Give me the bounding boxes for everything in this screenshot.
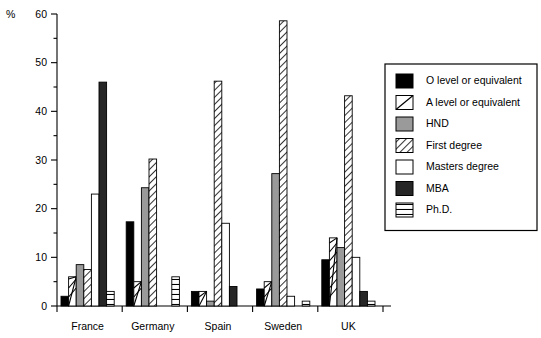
bar <box>257 289 265 306</box>
legend-item-label: First degree <box>426 139 482 151</box>
legend-swatch <box>396 182 413 196</box>
bar <box>367 301 375 306</box>
bar <box>61 296 69 306</box>
category-labels: FranceGermanySpainSwedenUK <box>57 306 383 332</box>
x-axis-category-label: Sweden <box>264 320 302 332</box>
bar <box>222 223 230 306</box>
x-axis-category-label: France <box>71 320 104 332</box>
legend-swatch <box>396 160 413 174</box>
bar <box>229 287 237 306</box>
bar <box>337 248 345 306</box>
legend-item-label: HND <box>426 117 449 129</box>
bar <box>172 277 180 306</box>
chart-canvas: 0102030405060% FranceGermanySpainSwedenU… <box>0 0 541 338</box>
legend-swatch <box>396 74 413 88</box>
bar <box>352 257 360 306</box>
bar <box>272 174 280 306</box>
bar <box>149 159 157 306</box>
bar <box>279 21 287 306</box>
y-axis-unit-label: % <box>6 8 15 20</box>
bar <box>84 270 92 307</box>
bar <box>287 296 295 306</box>
bar <box>91 194 99 306</box>
bar <box>141 188 149 306</box>
x-axis-category-label: UK <box>341 320 356 332</box>
bar <box>76 265 84 306</box>
bar <box>214 81 222 306</box>
legend-item-label: O level or equivalent <box>426 74 522 86</box>
legend-item-label: A level or equivalent <box>426 96 520 108</box>
y-axis-tick-label: 0 <box>41 300 47 312</box>
y-axis-tick-label: 40 <box>35 105 47 117</box>
y-axis-tick-label: 30 <box>35 154 47 166</box>
y-axis-tick-label: 20 <box>35 202 47 214</box>
bar <box>360 291 368 306</box>
bar <box>322 260 330 306</box>
x-axis-category-label: Spain <box>205 320 232 332</box>
legend-item-label: MBA <box>426 182 449 194</box>
chart-legend: O level or equivalentA level or equivale… <box>385 64 537 231</box>
legend-swatch <box>396 117 413 131</box>
bar <box>99 82 107 306</box>
legend-swatch <box>396 203 413 217</box>
bar <box>302 301 310 306</box>
bars-group <box>61 21 375 306</box>
y-axis-tick-label: 50 <box>35 56 47 68</box>
y-axis-tick-label: 60 <box>35 8 47 20</box>
x-axis-category-label: Germany <box>131 320 175 332</box>
legend-item-label: Masters degree <box>426 160 499 172</box>
bar <box>191 291 199 306</box>
legend-item-label: Ph.D. <box>426 203 452 215</box>
y-axis-tick-label: 10 <box>35 251 47 263</box>
legend-swatch <box>396 139 413 153</box>
bar <box>345 96 353 306</box>
bar <box>207 301 215 306</box>
bar-chart: 0102030405060% FranceGermanySpainSwedenU… <box>0 0 541 338</box>
bar <box>107 291 115 306</box>
bar <box>126 222 134 306</box>
